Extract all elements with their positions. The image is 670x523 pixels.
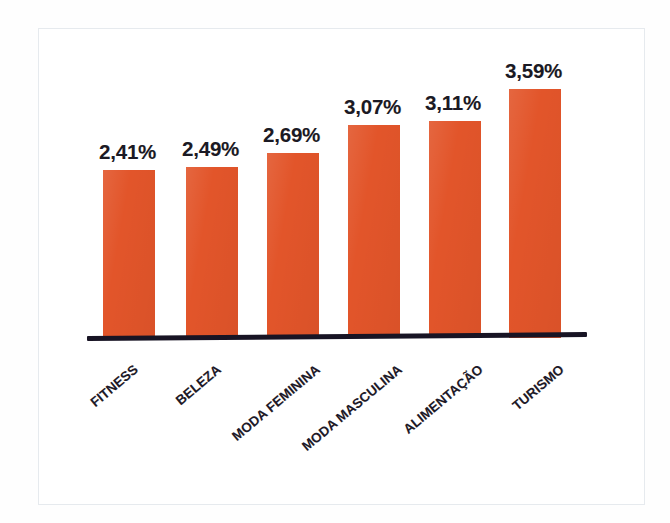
value-label-moda-masculina: 3,07% (344, 95, 401, 119)
value-label-moda-feminina: 2,69% (263, 123, 320, 147)
bar-turismo[interactable] (509, 89, 561, 338)
plot-area: 2,41% 2,49% 2,69% 3,07% 3,11% 3,59% FITN… (0, 0, 670, 523)
bar-moda-feminina[interactable] (267, 153, 319, 338)
bar-beleza[interactable] (186, 167, 238, 338)
value-label-beleza: 2,49% (182, 137, 239, 161)
chart-figure: 2,41% 2,49% 2,69% 3,07% 3,11% 3,59% FITN… (0, 0, 670, 523)
bar-alimentacao[interactable] (429, 121, 481, 338)
value-label-fitness: 2,41% (99, 140, 156, 164)
value-label-alimentacao: 3,11% (425, 91, 481, 115)
bar-moda-masculina[interactable] (348, 125, 400, 338)
bar-fitness[interactable] (103, 170, 155, 338)
x-axis-baseline (87, 332, 587, 341)
value-label-turismo: 3,59% (505, 59, 562, 83)
